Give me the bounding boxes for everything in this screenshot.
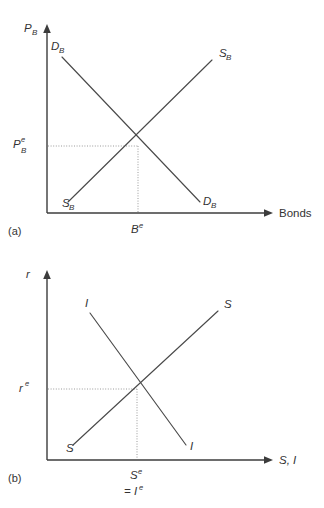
panel-a-demand-curve bbox=[62, 57, 200, 202]
panel-a-y-axis-arrowhead bbox=[43, 24, 51, 33]
panel-a-demand-label-upper-subscript: B bbox=[59, 46, 65, 55]
panel-b-investment-curve bbox=[90, 313, 186, 445]
panel-b-saving-label-upper: S bbox=[224, 298, 232, 310]
panel-a-y-axis-label: P bbox=[24, 22, 32, 34]
panel-a-y-axis-label-subscript: B bbox=[32, 28, 38, 37]
panel-a-supply-label-upper-subscript: B bbox=[226, 53, 232, 62]
panel-b-equilibrium-quantity-label-alt: = I bbox=[124, 485, 138, 497]
panel-b-investment-label-lower: I bbox=[190, 440, 194, 452]
panel-b-x-axis-label: S, I bbox=[279, 454, 297, 466]
panel-b-x-axis-arrowhead bbox=[264, 456, 273, 464]
panel-b-equilibrium-rate-superscript: e bbox=[25, 379, 29, 388]
panel-b-equilibrium-quantity-label: S bbox=[130, 469, 138, 481]
panel-b: r r e I S S I S, I S e = I e (b) bbox=[8, 268, 297, 497]
panel-b-saving-curve bbox=[73, 311, 218, 445]
figure-canvas: P B P e B D B S B S B D B Bonds B e (a) bbox=[0, 0, 324, 508]
panel-a-supply-curve bbox=[68, 60, 212, 202]
panel-a-equilibrium-price-superscript: e bbox=[21, 135, 25, 144]
panel-a-x-axis-arrowhead bbox=[264, 209, 273, 217]
panel-a-demand-label-lower-subscript: B bbox=[211, 201, 217, 210]
panel-a-supply-label-lower-subscript: B bbox=[69, 203, 75, 212]
panel-a: P B P e B D B S B S B D B Bonds B e (a) bbox=[8, 22, 312, 237]
panel-a-equilibrium-quantity-label: B bbox=[131, 223, 139, 235]
panel-b-equilibrium-rate-label: r bbox=[19, 382, 24, 394]
panel-a-equilibrium-quantity-superscript: e bbox=[139, 221, 143, 230]
panel-a-equilibrium-price-label: P bbox=[13, 138, 21, 150]
panel-b-y-axis-arrowhead bbox=[43, 270, 51, 279]
panel-b-tag: (b) bbox=[8, 472, 21, 484]
panel-a-tag: (a) bbox=[8, 225, 21, 237]
panel-a-equilibrium-price-subscript: B bbox=[21, 146, 27, 155]
panel-b-investment-label-upper: I bbox=[85, 297, 89, 309]
panel-b-saving-label-lower: S bbox=[66, 442, 74, 454]
panel-b-equilibrium-quantity-superscript: e bbox=[138, 467, 142, 476]
panel-b-equilibrium-quantity-alt-superscript: e bbox=[139, 483, 143, 492]
panel-b-y-axis-label: r bbox=[26, 268, 31, 280]
panel-a-x-axis-label: Bonds bbox=[279, 207, 312, 219]
economics-figure: P B P e B D B S B S B D B Bonds B e (a) bbox=[0, 0, 324, 508]
